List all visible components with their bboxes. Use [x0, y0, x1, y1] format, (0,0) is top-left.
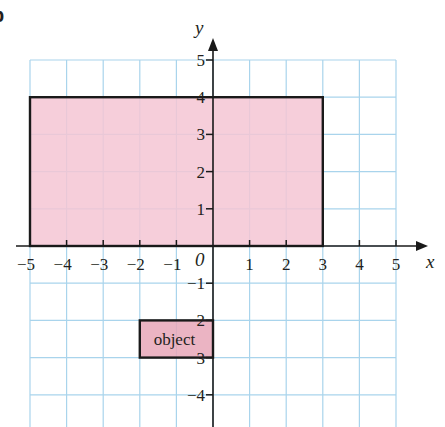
y-tick-label: −1	[187, 274, 205, 293]
x-tick-label: 5	[392, 255, 401, 274]
y-tick-label: 5	[197, 51, 206, 70]
part-label: b	[0, 4, 4, 26]
y-axis-label: y	[193, 17, 204, 38]
x-tick-label: 3	[319, 255, 328, 274]
x-tick-label: 1	[245, 255, 254, 274]
x-tick-label: −5	[17, 255, 35, 274]
x-tick-label: 2	[282, 255, 291, 274]
x-tick-label: 4	[355, 255, 364, 274]
y-tick-label: 1	[197, 200, 206, 219]
coordinate-grid-figure: −5−4−3−2−11234554321−123−4xy0object b	[0, 0, 445, 427]
y-tick-label: 4	[197, 88, 206, 107]
y-tick-label: 3	[197, 349, 206, 368]
y-axis-arrow-icon	[208, 38, 218, 51]
x-tick-label: −1	[163, 255, 181, 274]
object-label: object	[154, 330, 196, 349]
x-axis-arrow-icon	[416, 241, 428, 251]
x-tick-label: −3	[90, 255, 108, 274]
origin-label: 0	[195, 249, 205, 270]
large-rectangle	[30, 97, 323, 246]
y-tick-label: 2	[197, 163, 206, 182]
x-tick-label: −4	[54, 255, 73, 274]
x-axis-label: x	[425, 251, 435, 272]
y-tick-label: −4	[187, 386, 206, 405]
y-tick-label: 3	[197, 125, 206, 144]
y-tick-label: 2	[197, 311, 206, 330]
x-tick-label: −2	[127, 255, 145, 274]
